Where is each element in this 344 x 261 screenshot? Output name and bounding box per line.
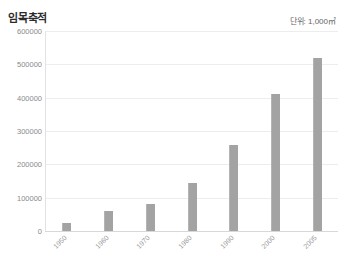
x-axis-tick-label: 1960 bbox=[90, 234, 109, 253]
x-axis-tick-labels: 1950196019701980199020002005 bbox=[46, 232, 338, 261]
y-axis-tick-label: 500000 bbox=[17, 60, 42, 69]
chart-container: 임목축적 단위: 1,000㎥ 010000020000030000040000… bbox=[0, 0, 344, 261]
x-axis-tick-label: 1980 bbox=[174, 234, 193, 253]
y-axis-tick-label: 0 bbox=[38, 227, 42, 236]
bar bbox=[229, 145, 238, 231]
y-axis-tick-labels: 0100000200000300000400000500000600000 bbox=[0, 31, 42, 231]
bar bbox=[104, 211, 113, 231]
bar bbox=[188, 183, 197, 231]
bar bbox=[62, 223, 71, 231]
bar-series bbox=[46, 31, 338, 231]
chart-title: 임목축적 bbox=[8, 9, 47, 25]
bar bbox=[146, 204, 155, 231]
x-axis-tick-label: 1950 bbox=[49, 234, 68, 253]
y-axis-tick-label: 400000 bbox=[17, 93, 42, 102]
bar bbox=[271, 94, 280, 231]
x-axis-tick-label: 1970 bbox=[132, 234, 151, 253]
y-axis-tick-label: 100000 bbox=[17, 193, 42, 202]
x-axis-tick-label: 2005 bbox=[299, 234, 318, 253]
y-axis-tick-label: 600000 bbox=[17, 27, 42, 36]
x-axis-tick-label: 1990 bbox=[216, 234, 235, 253]
bar bbox=[313, 58, 322, 231]
x-axis-tick-label: 2000 bbox=[257, 234, 276, 253]
y-axis-tick-label: 200000 bbox=[17, 160, 42, 169]
y-axis-tick-label: 300000 bbox=[17, 127, 42, 136]
chart-unit-label: 단위: 1,000㎥ bbox=[290, 15, 336, 26]
